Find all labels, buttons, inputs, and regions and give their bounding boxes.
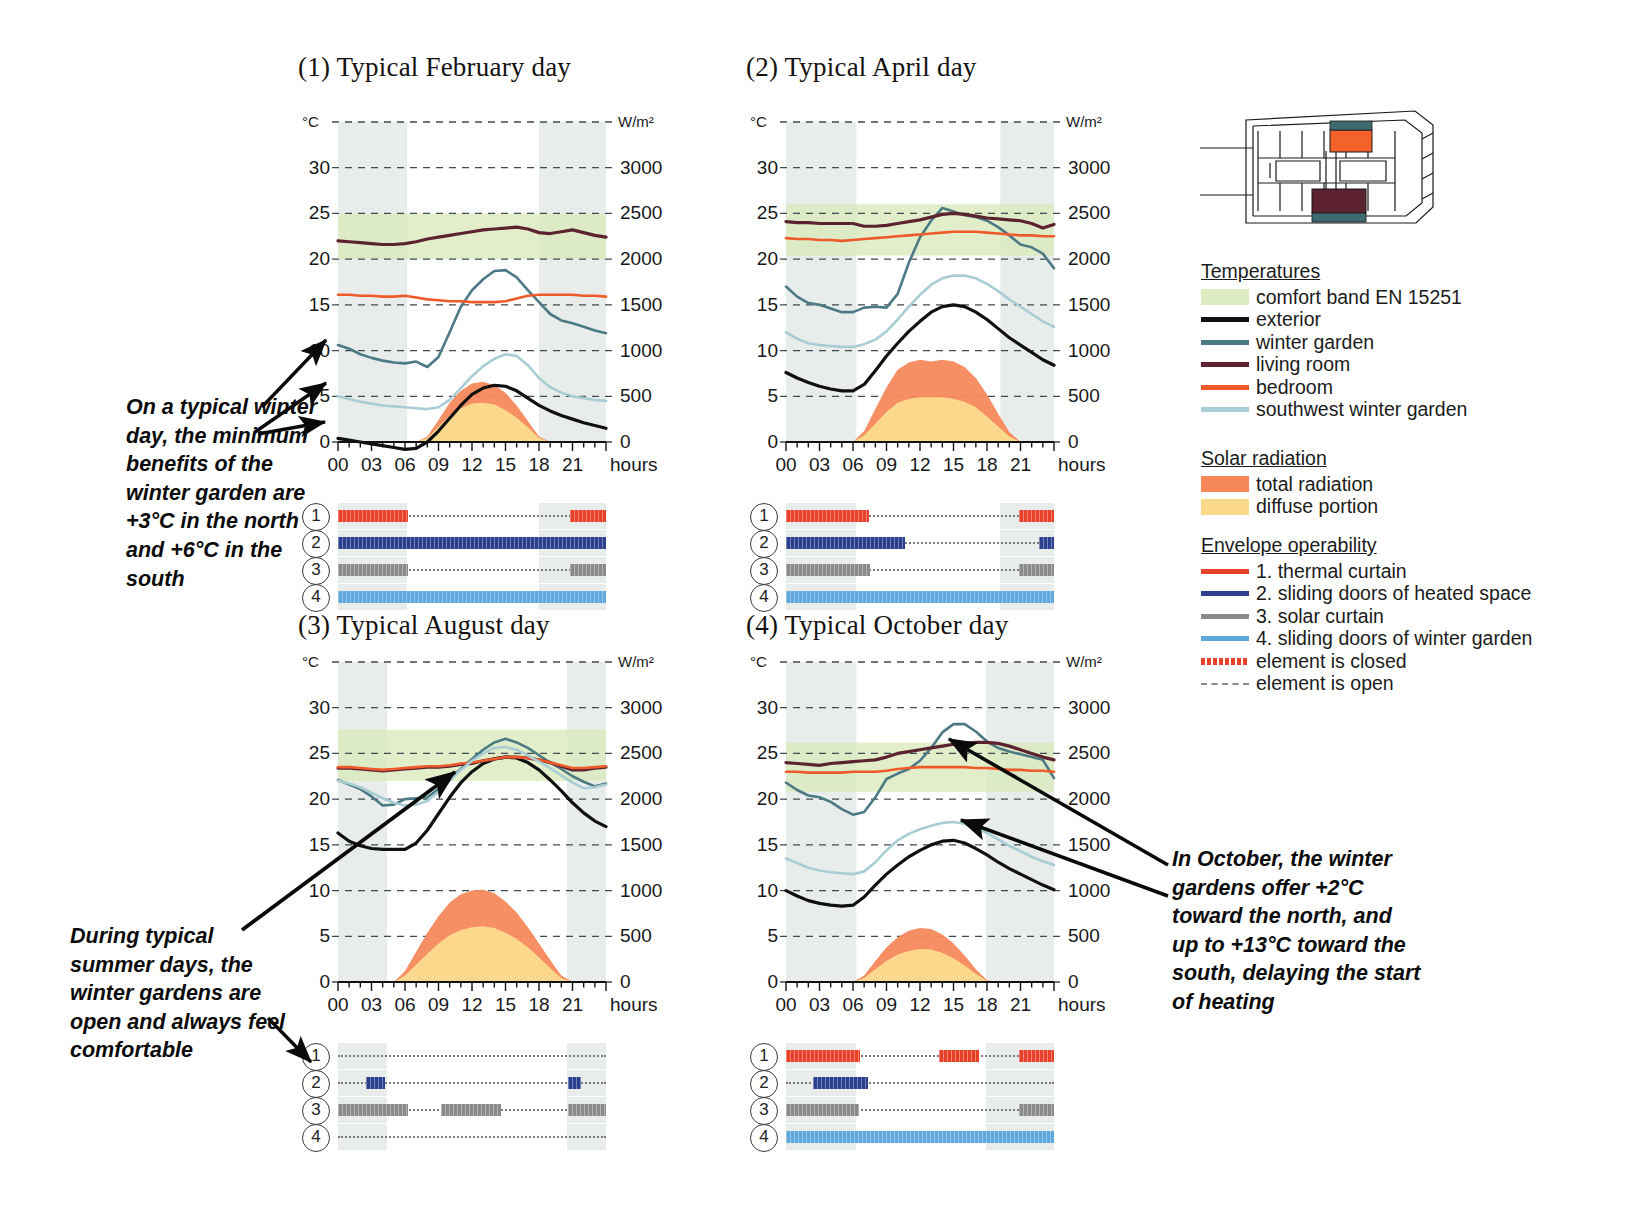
legend-item: 2. sliding doors of heated space (1201, 583, 1532, 606)
y2-tick-label: 1000 (1068, 340, 1128, 362)
y-tick-label: 0 (734, 431, 778, 453)
y2-tick-label: 2500 (1068, 742, 1128, 764)
chart-august: °CW/m²3025201510503000250020001500100050… (300, 648, 700, 1108)
y-tick-label: 20 (734, 248, 778, 270)
y2-tick-label: 1000 (620, 880, 680, 902)
legend-swatch-line (1201, 317, 1249, 322)
y2-tick-label: 0 (1068, 971, 1128, 993)
legend-item-label: 4. sliding doors of winter garden (1256, 627, 1532, 650)
y-tick-label: 20 (286, 788, 330, 810)
y-tick-label: 15 (734, 294, 778, 316)
y2-tick-label: 2500 (620, 202, 680, 224)
building-floor-plan (1190, 103, 1440, 233)
legend-heading: Solar radiation (1201, 447, 1378, 470)
y2-tick-label: 3000 (620, 157, 680, 179)
night-shading (539, 122, 606, 442)
legend-item: diffuse portion (1201, 496, 1378, 519)
y-tick-label: 30 (286, 157, 330, 179)
y2-tick-label: 2000 (1068, 788, 1128, 810)
legend-item: comfort band EN 15251 (1201, 286, 1467, 309)
legend-item-label: element is open (1256, 672, 1394, 695)
legend-swatch-line (1201, 569, 1249, 574)
legend-swatch-line (1201, 591, 1249, 596)
chart-october: °CW/m²3025201510503000250020001500100050… (748, 648, 1148, 1108)
envelope-closed-bar (338, 537, 606, 549)
legend-item-label: total radiation (1256, 473, 1373, 496)
legend-swatch-band (1201, 289, 1249, 305)
legend-swatch-band (1201, 476, 1249, 492)
legend-swatch-line (1201, 340, 1249, 345)
envelope-closed-bar (338, 564, 408, 576)
envelope-row-number: 1 (750, 503, 778, 531)
legend-item-label: southwest winter garden (1256, 398, 1467, 421)
envelope-closed-bar (786, 1050, 860, 1062)
legend-item: southwest winter garden (1201, 399, 1467, 422)
envelope-open-line (338, 1136, 606, 1138)
envelope-row-number: 4 (750, 1124, 778, 1152)
legend-envelope-operability: Envelope operability1. thermal curtain2.… (1201, 534, 1532, 695)
y2-tick-label: 500 (1068, 385, 1128, 407)
y2-tick-label: 2000 (620, 788, 680, 810)
y-tick-label: 20 (734, 788, 778, 810)
envelope-row-number: 3 (750, 557, 778, 585)
envelope-closed-bar (1019, 1050, 1054, 1062)
axis-unit-celsius: °C (750, 113, 767, 130)
y-tick-label: 30 (734, 697, 778, 719)
y2-tick-label: 3000 (1068, 697, 1128, 719)
axis-unit-celsius: °C (302, 113, 319, 130)
legend-swatch-open (1201, 683, 1249, 685)
y2-tick-label: 2500 (620, 742, 680, 764)
panel-october: (4) Typical October day (746, 610, 1008, 641)
y2-tick-label: 2000 (1068, 248, 1128, 270)
y2-tick-label: 3000 (620, 697, 680, 719)
envelope-closed-bar (1019, 564, 1054, 576)
y-tick-label: 10 (286, 340, 330, 362)
y-tick-label: 15 (734, 834, 778, 856)
legend-item-label: 1. thermal curtain (1256, 560, 1407, 583)
envelope-row-number: 2 (750, 530, 778, 558)
legend-item: 4. sliding doors of winter garden (1201, 628, 1532, 651)
axis-unit-wm2: W/m² (618, 113, 654, 130)
envelope-closed-bar (338, 510, 408, 522)
y2-tick-label: 1000 (1068, 880, 1128, 902)
y2-tick-label: 500 (1068, 925, 1128, 947)
x-tick-label: 21 (551, 994, 595, 1016)
y2-tick-label: 500 (620, 925, 680, 947)
panel-april: (2) Typical April day (746, 52, 977, 83)
envelope-row-number: 4 (750, 584, 778, 612)
envelope-row-number: 3 (302, 1097, 330, 1125)
panel-august: (3) Typical August day (298, 610, 550, 641)
night-shading (338, 662, 387, 982)
y2-tick-label: 0 (620, 971, 680, 993)
axis-unit-wm2: W/m² (1066, 653, 1102, 670)
night-shading (1000, 122, 1054, 442)
axis-unit-wm2: W/m² (1066, 113, 1102, 130)
wintergarden-south (1312, 213, 1366, 222)
legend-item-label: winter garden (1256, 331, 1374, 354)
envelope-row-number: 3 (750, 1097, 778, 1125)
legend-item: element is closed (1201, 650, 1532, 673)
legend-swatch-band (1201, 499, 1249, 515)
legend-swatch-line (1201, 385, 1249, 390)
y-tick-label: 10 (286, 880, 330, 902)
legend-swatch-line (1201, 614, 1249, 619)
y-tick-label: 20 (286, 248, 330, 270)
envelope-closed-bar (1019, 510, 1054, 522)
legend-item: total radiation (1201, 473, 1378, 496)
x-axis-label: hours (610, 454, 658, 476)
chart-february: °CW/m²3025201510503000250020001500100050… (300, 108, 700, 568)
y-tick-label: 15 (286, 834, 330, 856)
x-tick-label: 21 (551, 454, 595, 476)
y-tick-label: 10 (734, 880, 778, 902)
legend-item-label: diffuse portion (1256, 495, 1378, 518)
x-axis-label: hours (1058, 994, 1106, 1016)
annotation-summer: During typical summer days, the winter g… (70, 922, 298, 1065)
y-tick-label: 30 (286, 697, 330, 719)
legend-item-label: comfort band EN 15251 (1256, 286, 1462, 309)
legend-heading: Temperatures (1201, 260, 1467, 283)
envelope-row-number: 4 (302, 1124, 330, 1152)
envelope-open-line (338, 1055, 606, 1057)
y2-tick-label: 0 (620, 431, 680, 453)
y2-tick-label: 1500 (620, 294, 680, 316)
envelope-closed-bar (1019, 1104, 1054, 1116)
